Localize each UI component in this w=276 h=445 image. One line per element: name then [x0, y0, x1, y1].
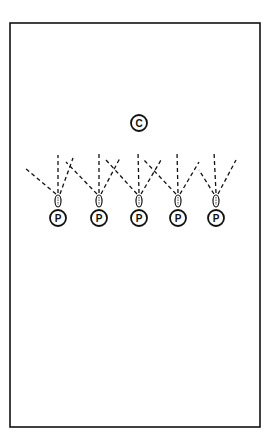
- player-2: P: [66, 153, 120, 226]
- player-label: P: [175, 213, 182, 224]
- pass-line-left: [144, 160, 176, 194]
- players-group: P P P P: [25, 152, 236, 226]
- player-1: P: [25, 155, 73, 226]
- coach-label: C: [135, 118, 142, 129]
- pass-line-right: [101, 158, 120, 194]
- player-label: P: [136, 213, 143, 224]
- pass-line-left: [66, 162, 97, 194]
- player-4: P: [144, 152, 199, 226]
- coach-marker: C: [131, 115, 147, 131]
- pass-line-left: [106, 160, 137, 194]
- player-3: P: [106, 152, 161, 226]
- pass-line-left: [199, 170, 214, 194]
- pass-line-up: [214, 152, 216, 193]
- player-label: P: [96, 213, 103, 224]
- player-5: P: [199, 152, 236, 226]
- player-label: P: [213, 213, 220, 224]
- pass-line-right: [180, 162, 199, 194]
- pass-line-up: [177, 152, 178, 193]
- drill-diagram: C P P P: [0, 0, 276, 445]
- pass-line-right: [141, 160, 161, 194]
- player-label: P: [55, 213, 62, 224]
- pass-line-left: [25, 168, 56, 194]
- pass-line-up: [138, 152, 139, 193]
- pass-line-right: [218, 160, 236, 194]
